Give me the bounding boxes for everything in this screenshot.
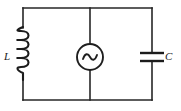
inductor-label: L [4,51,10,62]
inductor-coil-path [17,27,28,80]
circuit-diagram: L C [0,0,181,111]
inductor-symbol [17,27,28,80]
capacitor-label: C [165,51,172,62]
circuit-schematic-canvas [0,0,181,111]
ac-source-symbol [77,44,103,70]
capacitor-symbol [140,53,164,61]
